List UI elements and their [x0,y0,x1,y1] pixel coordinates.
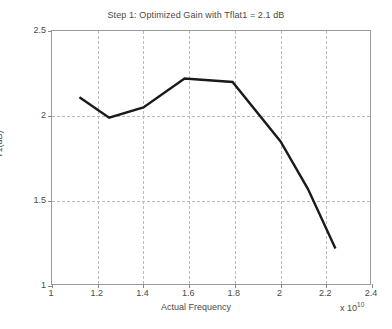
x-axis-multiplier: x 1010 [340,301,364,313]
y-tick-label: 1 [6,280,46,290]
data-series-layer [52,31,372,286]
y-tick-mark [48,286,52,287]
y-tick-label: 1.5 [6,195,46,205]
x-tick-label: 2.4 [365,288,378,298]
y-tick-label: 2 [6,110,46,120]
series-line-t1 [79,79,335,249]
x-tick-label: 2 [277,288,282,298]
chart-title: Step 1: Optimized Gain with Tflat1 = 2.1… [0,10,392,20]
x-tick-label: 2.2 [319,288,332,298]
x-tick-label: 1 [48,288,53,298]
x-axis-title: Actual Frequency [0,302,392,312]
y-tick-label: 2.5 [6,25,46,35]
x-tick-label: 1.2 [90,288,103,298]
figure-canvas: Step 1: Optimized Gain with Tflat1 = 2.1… [0,0,392,329]
plot-area [51,30,371,285]
y-axis-title: T1(dB) [0,130,4,158]
x-tick-label: 1.4 [136,288,149,298]
x-tick-label: 1.6 [182,288,195,298]
x-tick-label: 1.8 [228,288,241,298]
